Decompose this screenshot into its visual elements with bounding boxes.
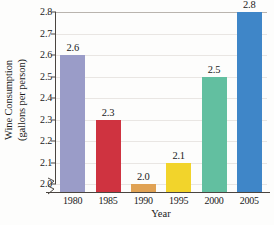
- bar: [166, 163, 191, 193]
- bar-value-label: 2.0: [123, 171, 163, 182]
- bar-series: 2.62.32.02.12.52.8: [55, 12, 267, 192]
- y-tick-label: 2.1: [26, 158, 52, 168]
- y-tick-label: 2.7: [26, 29, 52, 39]
- bar: [131, 184, 156, 192]
- y-tick-label: 2.3: [26, 115, 52, 125]
- bar-value-label: 2.5: [194, 64, 234, 75]
- x-axis-label: Year: [55, 208, 267, 220]
- bar-value-label: 2.8: [229, 0, 269, 10]
- bar-chart: Wine Consumption (gallons per person) 2.…: [0, 0, 274, 225]
- y-tick-label: 2.6: [26, 50, 52, 60]
- y-tick-label: 2.4: [26, 93, 52, 103]
- bar: [202, 77, 227, 193]
- y-tick-label: 2.2: [26, 136, 52, 146]
- bar: [60, 55, 85, 192]
- bar: [237, 12, 262, 192]
- bar-value-label: 2.1: [159, 150, 199, 161]
- y-tick-label: 2.8: [26, 7, 52, 17]
- x-tick-label: 2005: [227, 195, 271, 207]
- bar-value-label: 2.6: [53, 42, 93, 53]
- x-axis-line: [46, 192, 270, 193]
- y-tick-label: 2.5: [26, 72, 52, 82]
- bar-value-label: 2.3: [88, 107, 128, 118]
- y-axis-label-line1: Wine Consumption: [3, 59, 16, 141]
- bar: [96, 120, 121, 193]
